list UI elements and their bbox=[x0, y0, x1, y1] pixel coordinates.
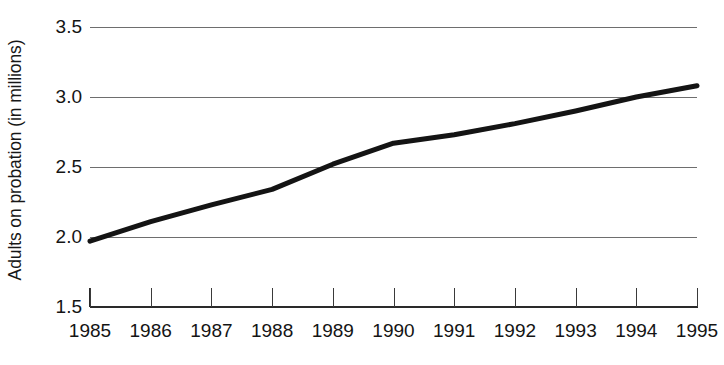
x-tick-label-1988: 1988 bbox=[237, 320, 307, 342]
line-chart: Adults on probation (in millions) 3.5 3.… bbox=[0, 0, 724, 365]
x-tick-label-1993: 1993 bbox=[541, 320, 611, 342]
x-tick-label-1994: 1994 bbox=[601, 320, 671, 342]
x-tick-1992 bbox=[515, 288, 516, 307]
y-axis-title: Adults on probation (in millions) bbox=[2, 4, 28, 316]
x-tick-label-1987: 1987 bbox=[176, 320, 246, 342]
y-tick-label-1-5: 1.5 bbox=[36, 297, 82, 316]
x-tick-1988 bbox=[272, 288, 273, 307]
plot-area bbox=[90, 27, 697, 307]
x-tick-label-1990: 1990 bbox=[359, 320, 429, 342]
x-tick-1986 bbox=[151, 288, 152, 307]
x-tick-label-1986: 1986 bbox=[116, 320, 186, 342]
x-tick-1990 bbox=[394, 288, 395, 307]
x-tick-1987 bbox=[211, 288, 212, 307]
y-tick-label-3-0: 3.0 bbox=[36, 87, 82, 106]
x-tick-1991 bbox=[454, 288, 455, 307]
y-axis-tick-labels: 3.5 3.0 2.5 2.0 1.5 bbox=[30, 0, 82, 365]
x-tick-1994 bbox=[636, 288, 637, 307]
x-tick-label-1991: 1991 bbox=[419, 320, 489, 342]
y-tick-label-2-0: 2.0 bbox=[36, 227, 82, 246]
x-tick-1989 bbox=[333, 288, 334, 307]
x-tick-label-1995: 1995 bbox=[662, 320, 724, 342]
y-tick-label-2-5: 2.5 bbox=[36, 157, 82, 176]
y-tick-label-3-5: 3.5 bbox=[36, 17, 82, 36]
x-tick-1993 bbox=[576, 288, 577, 307]
x-tick-label-1985: 1985 bbox=[55, 320, 125, 342]
data-series-line bbox=[90, 27, 697, 307]
x-tick-1985 bbox=[90, 288, 91, 307]
x-axis-tick-labels: 1985198619871988198919901991199219931994… bbox=[0, 320, 724, 350]
x-tick-1995 bbox=[697, 288, 698, 307]
x-tick-label-1989: 1989 bbox=[298, 320, 368, 342]
x-tick-label-1992: 1992 bbox=[480, 320, 550, 342]
